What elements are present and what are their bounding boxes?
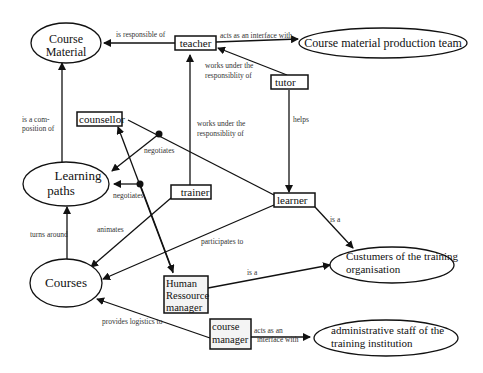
svg-text:counsellor: counsellor [79, 113, 125, 125]
node-trainer[interactable]: trainer [171, 185, 211, 199]
svg-text:Material: Material [46, 45, 87, 59]
svg-text:course: course [212, 321, 240, 332]
label-composition-1: is a com- [22, 115, 50, 124]
node-course-material[interactable]: Course Material [31, 23, 101, 63]
label-is-responsible-of: is responsible of [116, 30, 166, 39]
node-tutor[interactable]: tutor [271, 75, 308, 89]
label-acts-as-interface: acts as an interface with [220, 31, 292, 40]
svg-text:Custumers of the training: Custumers of the training [346, 250, 459, 262]
svg-text:teacher: teacher [180, 37, 212, 49]
label-tutor-works-under-2: responsiblity of [205, 71, 252, 80]
svg-text:Learning: Learning [55, 168, 102, 183]
junction-dot [156, 131, 163, 138]
label-learner-is-a: is a [330, 215, 341, 224]
label-participates-to: participates to [201, 237, 244, 246]
svg-text:administrative staff of the: administrative staff of the [331, 324, 444, 336]
node-learner[interactable]: learner [274, 193, 315, 207]
node-counsellor[interactable]: counsellor [77, 112, 125, 126]
label-provides-logistics: provides logistics to [102, 317, 163, 326]
svg-text:paths: paths [47, 183, 74, 198]
svg-text:Ressource: Ressource [166, 290, 209, 301]
svg-text:learner: learner [277, 194, 308, 206]
label-negotiates-2: negotiates [113, 191, 143, 200]
svg-text:manager: manager [166, 302, 203, 313]
junction-dot [137, 181, 144, 188]
concept-map: Course Material teacher Course material … [0, 0, 483, 373]
node-courses[interactable]: Courses [30, 259, 102, 307]
label-turns-around: turns around [30, 230, 68, 239]
svg-text:manager: manager [212, 334, 249, 345]
edge-hr-customers [208, 265, 330, 288]
label-trainer-works-under-1: works under the [197, 119, 246, 128]
svg-text:Courses: Courses [45, 275, 87, 290]
svg-text:Human: Human [166, 278, 198, 289]
label-composition-2: position of [22, 124, 55, 133]
node-production-team[interactable]: Course material production team [299, 28, 467, 58]
svg-text:trainer: trainer [181, 186, 210, 198]
label-tutor-works-under-1: works under the [205, 61, 254, 70]
svg-text:Course: Course [49, 32, 83, 46]
label-manager-interface-2: interface with [257, 335, 299, 344]
svg-text:organisation: organisation [346, 263, 401, 275]
label-animates: animates [97, 225, 124, 234]
svg-text:training institution: training institution [331, 337, 413, 349]
node-admin-staff[interactable]: administrative staff of the training ins… [314, 320, 458, 356]
node-teacher[interactable]: teacher [175, 36, 216, 50]
node-customers[interactable]: Custumers of the training organisation [330, 247, 459, 283]
label-negotiates-1: negotiates [144, 146, 174, 155]
edge-learner-customers [315, 207, 353, 248]
label-helps: helps [293, 115, 309, 124]
node-hr-manager[interactable]: Human Ressource manager [164, 276, 209, 313]
label-hr-is-a: is a [247, 268, 258, 277]
label-trainer-works-under-2: responsiblity of [197, 129, 244, 138]
edge-hr-arrow [140, 184, 173, 272]
svg-text:tutor: tutor [275, 76, 296, 88]
node-course-manager[interactable]: course manager [210, 319, 251, 349]
label-manager-interface-1: acts as an [254, 326, 283, 335]
node-learning-paths[interactable]: Learning paths [23, 162, 109, 206]
svg-text:Course material production tea: Course material production team [304, 36, 462, 50]
